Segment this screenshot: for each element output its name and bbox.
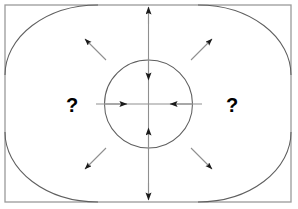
diagram-canvas: ? ?: [0, 0, 298, 209]
diagram-svg: ? ?: [0, 0, 298, 209]
arc-top-right: [198, 5, 291, 75]
question-label-right: ?: [226, 94, 238, 116]
arrow-corner-bottom-right: [191, 148, 212, 169]
arrow-corner-top-right: [191, 39, 212, 60]
arrow-corner-bottom-left: [85, 148, 106, 169]
arc-bottom-right: [198, 132, 291, 202]
question-label-left: ?: [66, 94, 78, 116]
arc-bottom-left: [5, 132, 98, 202]
arrow-corner-top-left: [85, 39, 106, 60]
arc-top-left: [5, 5, 98, 75]
